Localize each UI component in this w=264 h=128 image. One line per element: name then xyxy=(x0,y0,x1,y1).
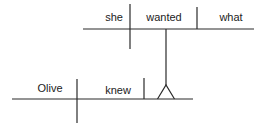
upper-subject-word: she xyxy=(105,11,123,23)
upper-object-word: what xyxy=(218,11,242,23)
main-subject-word: Olive xyxy=(37,82,62,94)
clause-pedestal xyxy=(158,29,175,99)
sentence-diagram: she wanted what Olive knew xyxy=(0,0,264,128)
upper-verb-word: wanted xyxy=(145,11,181,23)
object-clause: she wanted what xyxy=(83,4,254,49)
main-verb-word: knew xyxy=(105,84,131,96)
pedestal-triangle xyxy=(158,85,175,99)
